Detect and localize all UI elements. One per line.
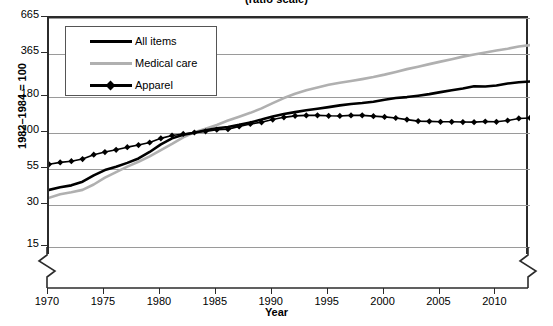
- legend-swatch-apparel: [90, 79, 132, 91]
- data-point-marker: [135, 142, 141, 148]
- data-point-marker: [482, 118, 488, 124]
- y-tick-label: 100: [0, 123, 39, 135]
- y-tick-label: 55: [0, 159, 39, 171]
- y-tick-label: 15: [0, 237, 39, 249]
- legend-label-apparel: Apparel: [135, 79, 173, 91]
- x-tick-mark: [215, 288, 216, 294]
- y-tick-mark: [41, 16, 47, 17]
- data-point-marker: [57, 159, 63, 165]
- y-axis-title: 1982–1984 = 100: [16, 36, 28, 176]
- data-point-marker: [370, 113, 376, 119]
- x-tick-mark: [494, 288, 495, 294]
- data-point-marker: [91, 152, 97, 158]
- data-point-marker: [124, 144, 130, 150]
- data-point-marker: [437, 119, 443, 125]
- y-tick-mark: [41, 245, 47, 246]
- data-point-marker: [359, 112, 365, 118]
- data-point-marker: [158, 135, 164, 141]
- chart-figure: (ratio scale) 1982–1984 = 100 1530551001…: [0, 0, 553, 326]
- y-tick-label: 665: [0, 8, 39, 20]
- chart-title: (ratio scale): [0, 0, 553, 5]
- legend-item-apparel: Apparel: [66, 74, 218, 96]
- data-point-marker: [460, 119, 466, 125]
- data-point-marker: [415, 118, 421, 124]
- data-point-marker: [516, 115, 522, 121]
- data-point-marker: [493, 119, 499, 125]
- series-line-all-items: [49, 81, 530, 189]
- data-point-marker: [393, 115, 399, 121]
- x-tick-mark: [383, 288, 384, 294]
- data-point-marker: [337, 113, 343, 119]
- y-tick-label: 30: [0, 195, 39, 207]
- y-tick-label: 180: [0, 87, 39, 99]
- data-point-marker: [404, 116, 410, 122]
- x-tick-mark: [159, 288, 160, 294]
- data-point-marker: [348, 112, 354, 118]
- legend-item-all-items: All items: [66, 30, 218, 52]
- legend: All items Medical care Apparel: [65, 26, 217, 96]
- data-point-marker: [381, 114, 387, 120]
- data-point-marker: [102, 149, 108, 155]
- data-point-marker: [449, 119, 455, 125]
- data-point-marker: [426, 118, 432, 124]
- data-point-marker: [505, 117, 511, 123]
- data-point-marker: [326, 113, 332, 119]
- x-tick-mark: [439, 288, 440, 294]
- y-tick-mark: [41, 203, 47, 204]
- data-point-marker: [68, 158, 74, 164]
- legend-label-medical-care: Medical care: [135, 57, 197, 69]
- data-point-marker: [314, 112, 320, 118]
- x-tick-mark: [327, 288, 328, 294]
- data-point-marker: [471, 119, 477, 125]
- data-point-marker: [79, 156, 85, 162]
- data-point-marker: [113, 147, 119, 153]
- data-point-marker: [303, 112, 309, 118]
- data-point-marker: [527, 115, 530, 121]
- x-tick-mark: [271, 288, 272, 294]
- legend-item-medical-care: Medical care: [66, 52, 218, 74]
- x-axis-title: Year: [0, 306, 553, 318]
- data-point-marker: [49, 161, 52, 167]
- y-tick-mark: [41, 95, 47, 96]
- legend-swatch-all-items: [90, 35, 132, 47]
- series-line-apparel: [49, 115, 530, 164]
- y-tick-mark: [41, 52, 47, 53]
- x-tick-mark: [47, 288, 48, 294]
- y-tick-label: 365: [0, 44, 39, 56]
- diamond-marker-icon: [106, 81, 116, 91]
- legend-label-all-items: All items: [135, 35, 177, 47]
- data-point-marker: [147, 139, 153, 145]
- y-tick-mark: [41, 167, 47, 168]
- legend-swatch-medical-care: [90, 57, 132, 69]
- x-tick-mark: [103, 288, 104, 294]
- y-tick-mark: [41, 131, 47, 132]
